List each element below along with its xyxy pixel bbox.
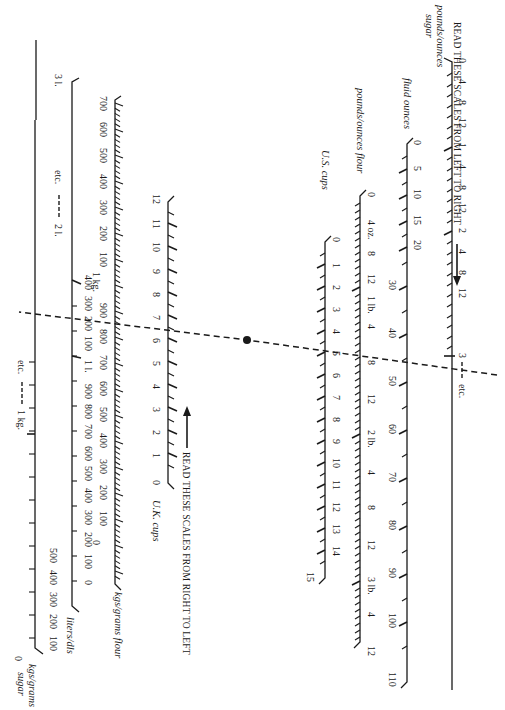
svg-text:7: 7: [151, 315, 162, 320]
svg-text:60: 60: [387, 424, 398, 434]
svg-text:0: 0: [331, 237, 342, 242]
svg-text:40: 40: [387, 328, 398, 338]
svg-text:10: 10: [151, 242, 162, 252]
scale-title: kgs/grams: [27, 664, 38, 707]
svg-text:200: 200: [98, 226, 109, 241]
svg-text:12: 12: [366, 394, 377, 404]
svg-text:300: 300: [48, 592, 59, 607]
svg-text:5: 5: [412, 166, 423, 171]
svg-text:15: 15: [412, 215, 423, 225]
scale-us-cups: U.S. cups 0: [305, 150, 342, 584]
svg-text:0: 0: [151, 480, 162, 485]
svg-text:0: 0: [83, 580, 94, 585]
svg-text:10: 10: [412, 189, 423, 199]
svg-text:600: 600: [98, 381, 109, 396]
svg-text:100: 100: [98, 511, 109, 526]
svg-text:400: 400: [83, 275, 94, 290]
svg-text:2: 2: [151, 430, 162, 435]
scale-subtitle: sugar: [16, 672, 27, 697]
svg-text:600: 600: [98, 122, 109, 137]
svg-text:900: 900: [98, 303, 109, 318]
svg-text:0: 0: [366, 192, 377, 197]
svg-text:8: 8: [331, 417, 342, 422]
svg-text:400: 400: [98, 174, 109, 189]
svg-text:12: 12: [457, 118, 468, 128]
svg-text:8: 8: [151, 292, 162, 297]
svg-text:3: 3: [457, 353, 468, 358]
nomogram: READ THESE SCALES FROM LEFT TO RIGHT pou…: [0, 0, 505, 710]
svg-text:etc.: etc.: [457, 384, 468, 398]
svg-text:1 kg.: 1 kg.: [16, 410, 27, 430]
svg-text:1 l.: 1 l.: [83, 360, 94, 373]
svg-text:800: 800: [83, 404, 94, 419]
svg-text:etc.: etc.: [16, 360, 27, 374]
svg-text:4: 4: [457, 79, 468, 84]
svg-text:9: 9: [151, 269, 162, 274]
svg-text:8: 8: [366, 251, 377, 256]
svg-text:12: 12: [151, 194, 162, 204]
svg-text:200: 200: [83, 532, 94, 547]
svg-text:12: 12: [457, 288, 468, 298]
svg-text:8: 8: [366, 505, 377, 510]
scale-liters-dls: 3 l. etc. 2 l. 400 liters/dls: [53, 74, 81, 654]
svg-text:8: 8: [457, 100, 468, 105]
svg-text:1: 1: [457, 143, 468, 148]
svg-text:12: 12: [331, 502, 342, 512]
svg-text:12: 12: [366, 540, 377, 550]
svg-text:15: 15: [305, 572, 316, 582]
svg-text:200: 200: [48, 614, 59, 629]
svg-text:8: 8: [366, 360, 377, 365]
svg-text:3: 3: [151, 407, 162, 412]
svg-text:500: 500: [83, 466, 94, 481]
scale-uk-cups: 12 11 10 9 8 7 6 5 4 3 2 1 0 U.K. cups: [151, 194, 177, 542]
scale-kgs-grams-flour: 700 600 500 400 300 200 100 1 kg. 900 80…: [91, 96, 124, 659]
svg-text:900: 900: [83, 384, 94, 399]
svg-text:4: 4: [366, 324, 377, 329]
svg-text:400: 400: [83, 488, 94, 503]
svg-text:8: 8: [457, 270, 468, 275]
scale-fluid-ounces: fluid ounces 0 5: [387, 78, 423, 688]
svg-text:600: 600: [83, 446, 94, 461]
svg-text:13: 13: [331, 524, 342, 534]
svg-text:5: 5: [151, 361, 162, 366]
svg-text:etc.: etc.: [53, 170, 64, 184]
svg-text:800: 800: [98, 329, 109, 344]
scale-title: liters/dls: [65, 617, 76, 654]
svg-text:8: 8: [457, 185, 468, 190]
scale-pounds-ounces-flour: pounds/ounces flour: [352, 87, 377, 656]
svg-text:3: 3: [331, 307, 342, 312]
svg-text:300: 300: [83, 296, 94, 311]
svg-text:4: 4: [151, 384, 162, 389]
svg-text:4: 4: [366, 470, 377, 475]
svg-text:50: 50: [387, 376, 398, 386]
svg-text:0: 0: [412, 140, 423, 145]
svg-text:700: 700: [83, 424, 94, 439]
svg-text:4: 4: [366, 612, 377, 617]
svg-text:10: 10: [331, 458, 342, 468]
svg-text:6: 6: [331, 373, 342, 378]
svg-text:9: 9: [331, 439, 342, 444]
svg-text:400: 400: [48, 570, 59, 585]
svg-text:500: 500: [98, 148, 109, 163]
header-right-to-left: READ THESE SCALES FROM RIGHT TO LEFT: [181, 452, 191, 655]
svg-text:90: 90: [387, 568, 398, 578]
arrow-left-icon: [183, 406, 191, 448]
svg-text:2 lb.: 2 lb.: [366, 430, 377, 448]
scale-title: fluid ounces: [402, 78, 413, 129]
svg-text:100: 100: [48, 636, 59, 651]
svg-text:4: 4: [457, 249, 468, 254]
svg-text:20: 20: [412, 240, 423, 250]
scale-subtitle: sugar: [424, 14, 435, 39]
svg-text:14: 14: [331, 546, 342, 556]
svg-text:4: 4: [331, 329, 342, 334]
svg-text:2 l.: 2 l.: [53, 224, 64, 237]
svg-text:110: 110: [387, 672, 398, 687]
svg-text:0: 0: [457, 58, 468, 63]
svg-text:100: 100: [387, 613, 398, 628]
svg-text:2: 2: [457, 228, 468, 233]
svg-text:11: 11: [331, 480, 342, 490]
svg-text:300: 300: [83, 510, 94, 525]
svg-text:70: 70: [387, 472, 398, 482]
svg-text:100: 100: [98, 252, 109, 267]
svg-text:500: 500: [98, 407, 109, 422]
